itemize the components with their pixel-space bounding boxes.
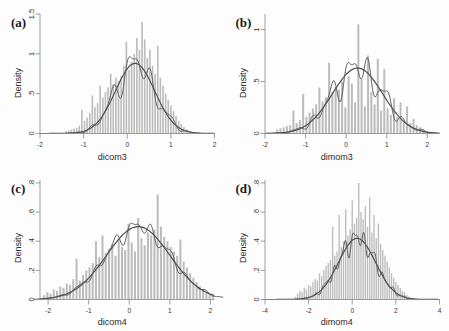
histogram-bar [316, 280, 317, 299]
panel-a-plot-area: -2-10120.511.5 [40, 14, 215, 134]
histogram-bar [94, 107, 96, 133]
histogram-bar [110, 74, 112, 134]
histogram-bar [56, 290, 58, 299]
panel-d-y-axis-label: Density [238, 233, 248, 263]
x-tick-label: 2 [394, 307, 398, 314]
panel-b-plot-area: -2-10120.51 [265, 14, 440, 134]
y-tick-label: 0 [28, 131, 35, 135]
y-tick-label: .2 [253, 267, 260, 273]
x-tick-label: -1 [81, 141, 87, 148]
x-tick-label: 0 [350, 307, 354, 314]
histogram-bar [397, 284, 398, 299]
histogram-bar [76, 258, 78, 299]
histogram-bar [196, 282, 198, 299]
histogram-bar [354, 102, 356, 133]
histogram-bar [89, 113, 91, 134]
x-tick-label: 2 [213, 141, 217, 148]
histogram-bar [121, 247, 123, 299]
histogram-bar [131, 242, 133, 299]
histogram-bar [355, 217, 356, 299]
histogram-bar [111, 244, 113, 299]
histogram-bar [160, 226, 162, 299]
histogram-bar [402, 121, 404, 133]
panel-a-svg: -2-10120.511.5 [40, 14, 215, 134]
histogram-bar [126, 42, 128, 134]
y-tick-label: 0 [253, 297, 260, 301]
histogram-bar [399, 287, 400, 299]
histogram-bar [369, 197, 370, 299]
histogram-bar [362, 219, 363, 299]
histogram-bar [99, 86, 101, 134]
histogram-bar [140, 238, 142, 299]
histogram-bar [160, 78, 162, 134]
histogram-bar [386, 261, 387, 299]
y-tick-label: .6 [28, 208, 35, 214]
panel-letter-a: (a) [11, 16, 26, 29]
histogram-bar [131, 62, 133, 134]
histogram-bar [336, 251, 337, 299]
histogram-bar [321, 101, 323, 133]
normal-density-curve [40, 63, 215, 133]
histogram-bar [367, 56, 369, 134]
y-tick-label: .4 [28, 237, 35, 243]
panel-a-y-axis-label: Density [13, 68, 23, 98]
histogram-bar [114, 255, 116, 299]
histogram-bar [79, 280, 81, 299]
histogram-bar [389, 115, 391, 134]
histogram-bar [166, 241, 168, 299]
histogram-bar [383, 69, 385, 133]
x-tick-label: 4 [437, 307, 441, 314]
histogram-bar [144, 245, 146, 299]
histogram-bar [133, 54, 135, 134]
histogram-bar [334, 255, 335, 299]
histogram-bar [192, 277, 194, 299]
histogram-bar [89, 267, 91, 299]
x-tick-label: 1 [169, 141, 173, 148]
histogram-bar [85, 270, 87, 299]
histogram-bar [186, 267, 188, 299]
y-tick-label: .4 [253, 237, 260, 243]
histogram-bar [345, 209, 346, 299]
histogram-bar [412, 119, 414, 134]
panel-c-plot-area: -2-10120.2.4.6.8 [40, 180, 215, 300]
histogram-bar [406, 106, 408, 133]
histogram-bar [127, 223, 129, 299]
panel-a-x-axis-label: dicom3 [0, 152, 225, 162]
histogram-bar [136, 38, 138, 134]
histogram-bar [112, 84, 114, 133]
histogram-bar [299, 290, 300, 299]
histogram-bar [120, 76, 122, 133]
histogram-bar [409, 123, 411, 133]
histogram-bar [189, 273, 191, 299]
histogram-bar [390, 273, 391, 299]
histogram-bar [150, 235, 152, 299]
histogram-bar [82, 274, 84, 299]
panel-b-y-axis-label: Density [238, 68, 248, 98]
histogram-bar [154, 74, 156, 134]
histogram-bar [108, 248, 110, 299]
panel-b-svg: -2-10120.51 [265, 14, 440, 134]
histogram-bar [349, 229, 350, 299]
histogram-bar [118, 81, 120, 134]
histogram-bar [315, 104, 317, 133]
panel-letter-b: (b) [236, 16, 252, 29]
histogram-bar [183, 261, 185, 299]
x-tick-label: -2 [37, 141, 43, 148]
histogram-bar [347, 76, 349, 133]
x-tick-label: 2 [209, 307, 213, 314]
x-tick-label: 0 [125, 141, 129, 148]
histogram-bar [157, 46, 159, 134]
x-tick-label: -1 [86, 307, 92, 314]
histogram-bar [331, 92, 333, 134]
histogram-bar [364, 206, 365, 299]
x-tick-label: 2 [425, 141, 429, 148]
histogram-bar [176, 255, 178, 299]
y-tick-label: .5 [28, 90, 35, 96]
histogram-bar [92, 263, 94, 299]
histogram-bar [334, 87, 336, 134]
histogram-bar [134, 251, 136, 299]
y-tick-label: 1.5 [28, 9, 35, 19]
histogram-bar [137, 217, 139, 299]
histogram-bar [124, 249, 126, 299]
histogram-bar [376, 59, 378, 134]
